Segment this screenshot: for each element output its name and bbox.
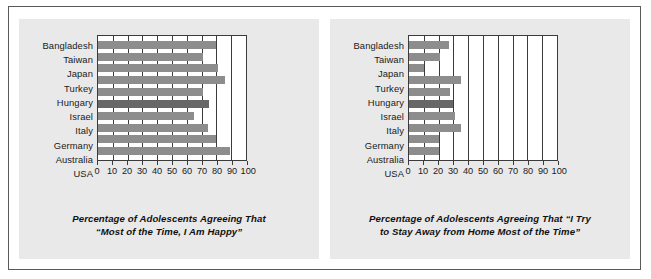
category-label: Bangladesh [330,41,404,51]
x-tick [232,161,233,165]
x-tick-label: 10 [107,166,117,176]
bar-israel [409,100,453,108]
bar-row [98,41,246,49]
category-label: Turkey [330,84,404,94]
x-tick [468,161,469,165]
bar-row [409,147,557,155]
category-label: Australia [19,155,93,165]
bar-row [409,76,557,84]
x-tick [483,161,484,165]
bar-hungary [98,88,203,96]
category-label: Hungary [330,98,404,108]
chart-panel-away: BangladeshTaiwanJapanTurkeyHungaryIsrael… [330,19,630,259]
category-label: Turkey [19,84,93,94]
x-tick-label: 0 [94,166,99,176]
bar-hungary [409,88,450,96]
bar-row [98,147,246,155]
x-tick-label: 90 [227,166,237,176]
x-tick-label: 60 [493,166,503,176]
x-tick-label: 70 [197,166,207,176]
caption-line-1: Percentage of Adolescents Agreeing That [72,213,266,224]
x-tick-label: 20 [433,166,443,176]
plot-wrap-happy: 0102030405060708090100 [97,35,247,185]
bar-usa [98,147,230,155]
chart-panel-happy: BangladeshTaiwanJapanTurkeyHungaryIsrael… [19,19,319,259]
x-tick [453,161,454,165]
caption-away: Percentage of Adolescents Agreeing That … [340,213,620,238]
x-tick-label: 70 [508,166,518,176]
caption-line-2: “Most of the Time, I Am Happy” [29,226,309,239]
chart-area-happy: BangladeshTaiwanJapanTurkeyHungaryIsrael… [19,19,319,205]
category-label: Taiwan [330,55,404,65]
plot-away [408,35,558,161]
bar-row [98,76,246,84]
x-tick [528,161,529,165]
bar-turkey [98,76,225,84]
bar-row [98,124,246,132]
bar-bangladesh [409,41,449,49]
bar-taiwan [409,53,440,61]
caption-line-2: to Stay Away from Home Most of the Time” [340,226,620,239]
x-tick [127,161,128,165]
x-tick [543,161,544,165]
category-label: USA [19,169,93,179]
x-tick [423,161,424,165]
category-label: Japan [330,69,404,79]
bar-bangladesh [98,41,216,49]
category-label: Japan [19,69,93,79]
bar-taiwan [98,53,203,61]
category-label: Italy [330,126,404,136]
x-tick-label: 100 [552,166,567,176]
category-label: Taiwan [19,55,93,65]
x-axis-happy: 0102030405060708090100 [97,161,247,185]
bar-row [409,124,557,132]
x-tick [202,161,203,165]
bar-germany [98,124,208,132]
gridline [557,36,558,160]
bar-row [98,64,246,72]
x-tick [97,161,98,165]
bar-israel [98,100,209,108]
x-tick [498,161,499,165]
bars-away [409,36,557,160]
x-tick-label: 100 [241,166,256,176]
category-label: Israel [19,112,93,122]
bar-japan [98,64,218,72]
category-label: Australia [330,155,404,165]
bar-row [409,64,557,72]
x-tick-label: 40 [463,166,473,176]
category-label: Italy [19,126,93,136]
bar-row [98,100,246,108]
x-tick [172,161,173,165]
x-tick-label: 90 [538,166,548,176]
x-tick-label: 50 [478,166,488,176]
bar-row [98,112,246,120]
category-labels-happy: BangladeshTaiwanJapanTurkeyHungaryIsrael… [19,41,93,179]
category-label: Germany [19,141,93,151]
bar-australia [409,135,439,143]
x-tick [187,161,188,165]
x-tick [157,161,158,165]
x-tick-label: 20 [122,166,132,176]
x-tick-label: 40 [152,166,162,176]
x-tick-label: 50 [167,166,177,176]
chart-area-away: BangladeshTaiwanJapanTurkeyHungaryIsrael… [330,19,630,205]
figure-frame: BangladeshTaiwanJapanTurkeyHungaryIsrael… [8,6,641,270]
plot-happy [97,35,247,161]
caption-happy: Percentage of Adolescents Agreeing That … [29,213,309,238]
bar-australia [98,135,216,143]
x-tick [247,161,248,165]
category-label: USA [330,169,404,179]
bar-row [409,112,557,120]
bar-turkey [409,76,461,84]
bar-row [409,100,557,108]
bar-row [409,41,557,49]
bar-row [409,88,557,96]
bar-row [98,135,246,143]
x-tick [558,161,559,165]
x-tick-label: 80 [212,166,222,176]
x-tick-label: 60 [182,166,192,176]
plot-wrap-away: 0102030405060708090100 [408,35,558,185]
x-tick [513,161,514,165]
x-axis-away: 0102030405060708090100 [408,161,558,185]
